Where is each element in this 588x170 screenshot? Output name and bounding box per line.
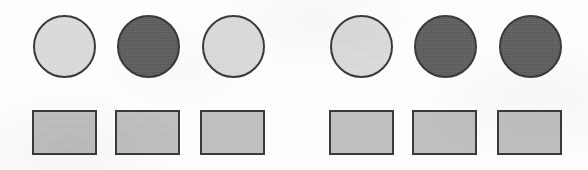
rect-1 bbox=[32, 110, 97, 155]
circle-4 bbox=[330, 15, 393, 78]
circle-3 bbox=[202, 15, 265, 78]
shape-figure bbox=[0, 0, 588, 170]
circle-5 bbox=[414, 15, 477, 78]
circle-1 bbox=[33, 15, 96, 78]
rect-5 bbox=[412, 110, 477, 155]
rect-3 bbox=[200, 110, 265, 155]
rect-6 bbox=[497, 110, 562, 155]
rect-2 bbox=[115, 110, 180, 155]
circle-2 bbox=[117, 15, 180, 78]
rect-4 bbox=[329, 110, 394, 155]
circle-6 bbox=[499, 15, 562, 78]
